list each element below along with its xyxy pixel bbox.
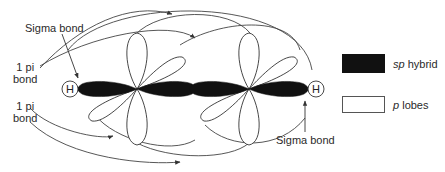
legend-label-sp-hybrid-rest: hybrid (405, 58, 438, 70)
pi-bond-label-1-line1: 1 pi (13, 61, 37, 73)
legend-label-sp-hybrid-italic: sp (393, 58, 405, 70)
pi-bond-label-1-line2: bond (13, 73, 37, 85)
legend-label-p-lobes-rest: lobes (399, 99, 428, 111)
pi-bond-arcs-bottom (30, 108, 305, 163)
sigma-bond-label-top: Sigma bond (25, 22, 84, 34)
sigma-bond-label-bottom: Sigma bond (276, 134, 335, 146)
legend-swatch-sp-hybrid (342, 54, 385, 73)
legend-label-sp-hybrid: sp hybrid (393, 58, 438, 70)
hydrogen-atom-left: H (62, 81, 78, 97)
pi-bond-label-2: 1 pi bond (13, 100, 37, 124)
legend-swatch-p-lobes (342, 96, 385, 113)
svg-text:H: H (312, 83, 320, 95)
orbital-diagram: H H Sigma bond 1 pi bond 1 pi bond Sigma… (0, 0, 445, 172)
hydrogen-atom-right: H (308, 81, 324, 97)
pi-bond-label-2-line2: bond (13, 112, 37, 124)
sp-hybrid-lobes (78, 81, 309, 96)
svg-text:H: H (66, 83, 74, 95)
legend-label-p-lobes: p lobes (393, 99, 428, 111)
pi-bond-label-1: 1 pi bond (13, 61, 37, 85)
pi-bond-label-2-line1: 1 pi (13, 100, 37, 112)
